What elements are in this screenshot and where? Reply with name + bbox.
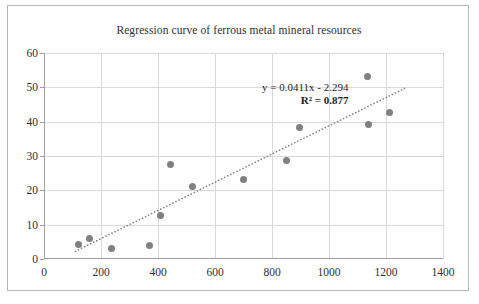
plot-area: 0102030405060 0200400600800100012001400 …: [44, 53, 443, 259]
y-tick-mark: [40, 259, 44, 260]
y-tick-mark: [40, 53, 44, 54]
r-squared-value: R² = 0.877: [262, 94, 348, 107]
data-point: [296, 124, 303, 131]
x-tick-label: 400: [149, 266, 166, 278]
y-tick-label: 10: [27, 219, 39, 231]
data-point: [365, 121, 372, 128]
data-point: [108, 245, 115, 252]
x-tick-label: 200: [92, 266, 109, 278]
gridline-horizontal: [44, 87, 443, 88]
x-tick-label: 1200: [375, 266, 398, 278]
y-tick-mark: [40, 87, 44, 88]
y-axis-line: [44, 53, 45, 259]
x-tick-label: 600: [206, 266, 223, 278]
gridline-vertical: [386, 53, 387, 259]
gridline-vertical: [158, 53, 159, 259]
x-tick-label: 800: [263, 266, 280, 278]
gridline-vertical: [215, 53, 216, 259]
x-axis-line: [44, 258, 443, 259]
data-point: [240, 176, 247, 183]
y-tick-label: 60: [27, 47, 39, 59]
gridline-horizontal: [44, 225, 443, 226]
data-point: [75, 241, 82, 248]
y-tick-label: 50: [27, 81, 39, 93]
gridline-horizontal: [44, 53, 443, 54]
data-point: [157, 212, 164, 219]
data-point: [189, 183, 196, 190]
chart-title: Regression curve of ferrous metal minera…: [8, 24, 470, 36]
data-point: [146, 242, 153, 249]
data-point: [364, 73, 371, 80]
data-point: [283, 157, 290, 164]
regression-equation: y = 0.0411x - 2.294: [262, 81, 348, 94]
y-tick-label: 30: [27, 150, 39, 162]
y-tick-label: 20: [27, 184, 39, 196]
x-tick-label: 1400: [432, 266, 455, 278]
data-point: [86, 235, 93, 242]
x-tick-label: 0: [41, 266, 47, 278]
chart-figure: Regression curve of ferrous metal minera…: [7, 5, 469, 291]
gridline-vertical: [443, 53, 444, 259]
y-tick-label: 40: [27, 116, 39, 128]
gridline-vertical: [101, 53, 102, 259]
y-tick-mark: [40, 122, 44, 123]
y-tick-mark: [40, 156, 44, 157]
x-tick-label: 1000: [318, 266, 341, 278]
y-tick-mark: [40, 225, 44, 226]
data-point: [167, 161, 174, 168]
y-tick-mark: [40, 190, 44, 191]
regression-annotation: y = 0.0411x - 2.294 R² = 0.877: [262, 81, 348, 108]
gridline-horizontal: [44, 190, 443, 191]
data-point: [386, 109, 393, 116]
y-tick-label: 0: [32, 253, 38, 265]
gridline-horizontal: [44, 156, 443, 157]
gridline-horizontal: [44, 122, 443, 123]
